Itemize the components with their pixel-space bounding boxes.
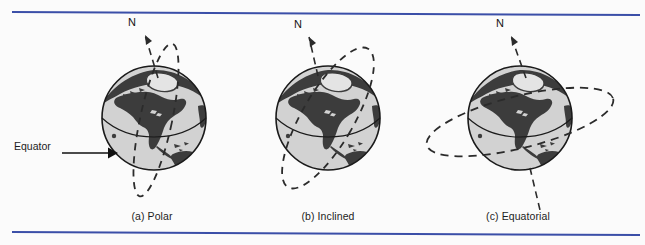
- globe-equatorial: [467, 66, 574, 191]
- orbit-types-figure: N (a) Polar N (b) Inclined: [0, 0, 645, 245]
- north-label-equatorial: N: [496, 17, 504, 29]
- caption-inclined: (b) Inclined: [228, 210, 428, 222]
- equator-label: Equator: [14, 140, 51, 152]
- bottom-rule: [12, 231, 640, 236]
- polar-diagram: [52, 18, 252, 218]
- top-rule: [12, 11, 640, 16]
- equator-arrow: [62, 145, 118, 161]
- panel-equatorial: N (c) Equatorial: [418, 18, 618, 228]
- north-label-polar: N: [128, 16, 136, 28]
- caption-polar: (a) Polar: [52, 210, 252, 222]
- panel-polar: N (a) Polar: [52, 18, 252, 228]
- panel-inclined: N (b) Inclined: [228, 18, 428, 228]
- equatorial-diagram: [418, 18, 628, 218]
- globe-inclined: [275, 66, 382, 191]
- north-label-inclined: N: [294, 18, 302, 30]
- caption-equatorial: (c) Equatorial: [418, 210, 618, 222]
- globe-polar: [101, 66, 208, 191]
- inclined-diagram: [228, 18, 428, 218]
